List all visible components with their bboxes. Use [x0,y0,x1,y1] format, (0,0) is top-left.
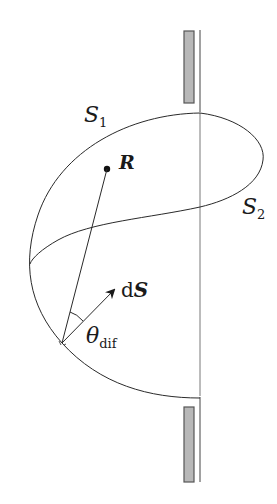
label-s2-main: S [242,194,257,219]
theta-angle-arc [70,312,83,321]
label-s2: S2 [242,196,265,218]
diffraction-diagram [0,0,277,504]
label-s1-main: S [84,102,99,127]
surface-s1-curve [30,113,200,398]
label-point-r: R [119,153,135,172]
label-theta-main: θ [86,323,99,348]
label-theta-dif: θdif [86,325,117,347]
label-ds-vector: S [134,278,148,302]
screen-bottom [184,397,200,482]
label-s2-sub: 2 [257,207,265,222]
screen-top-bar [184,31,194,103]
label-ds-prefix: d [121,278,134,302]
label-ds: dS [121,280,148,300]
label-s1-sub: 1 [99,115,107,130]
surface-s2-curve [30,113,263,264]
screen-top [184,30,200,112]
label-s1: S1 [84,104,107,126]
r-to-surface-line [62,169,107,343]
screen-bottom-bar [184,407,194,482]
label-theta-sub: dif [99,336,116,351]
